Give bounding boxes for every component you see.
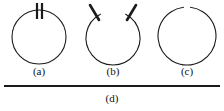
panel-b-label: (b) [76,65,150,77]
panel-a-drawing [2,0,76,70]
panel-c-drawing [150,0,224,70]
panel-c-label: (c) [150,65,224,77]
panel-b-drawing [76,0,150,70]
figure-panel-d: (d) [0,80,224,111]
circle-open-b [86,14,140,65]
panel-a-label: (a) [2,65,76,77]
figure-container: (a) (b) (c) (d) [0,0,224,111]
figure-panel-a: (a) [2,0,76,80]
circle-closed-a [12,10,66,64]
figure-panel-c: (c) [150,0,224,80]
figure-panel-b: (b) [76,0,150,80]
panel-d-label: (d) [0,92,224,104]
circle-open-c [158,7,216,65]
